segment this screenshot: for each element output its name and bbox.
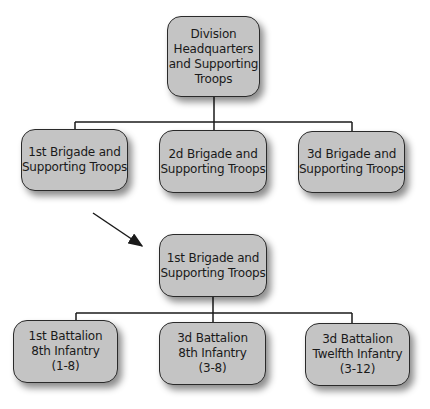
box-label-line: 3d Brigade and: [307, 147, 396, 162]
3d-battalion-8th-infantry-box: 3d Battalion 8th Infantry (3-8): [159, 322, 266, 385]
box-label-line: 3d Battalion: [322, 332, 393, 347]
box-label-line: 8th Infantry: [178, 346, 246, 361]
box-label-line: and Supporting: [169, 57, 259, 72]
2d-brigade-box: 2d Brigade and Supporting Troops: [159, 130, 267, 193]
1st-battalion-8th-infantry-box: 1st Battalion 8th Infantry (1-8): [13, 320, 118, 383]
box-label-line: (1-8): [52, 359, 80, 374]
3d-battalion-twelfth-infantry-box: 3d Battalion Twelfth Infantry (3-12): [305, 323, 410, 386]
box-label-line: Troops: [195, 72, 233, 87]
box-label-line: Twelfth Infantry: [313, 347, 403, 362]
box-label-line: 1st Battalion: [29, 329, 103, 344]
expanded-1st-brigade-box: 1st Brigade and Supporting Troops: [159, 234, 267, 297]
box-label-line: 1st Brigade and: [28, 145, 120, 160]
1st-brigade-box: 1st Brigade and Supporting Troops: [21, 129, 128, 191]
box-label-line: (3-8): [199, 361, 227, 376]
box-label-line: Headquarters: [174, 42, 254, 57]
3d-brigade-box: 3d Brigade and Supporting Troops: [298, 131, 405, 193]
box-label-line: Division: [191, 27, 237, 42]
box-label-line: (3-12): [340, 362, 375, 377]
box-label-line: Supporting Troops: [299, 162, 404, 177]
division-headquarters-box: Division Headquarters and Supporting Tro…: [167, 16, 260, 97]
box-label-line: 1st Brigade and: [167, 251, 259, 266]
box-label-line: 2d Brigade and: [168, 147, 257, 162]
arrow-down-right-icon: [93, 213, 142, 246]
box-label-line: Supporting Troops: [22, 160, 127, 175]
box-label-line: 3d Battalion: [177, 331, 248, 346]
box-label-line: 8th Infantry: [31, 344, 99, 359]
box-label-line: Supporting Troops: [160, 162, 265, 177]
box-label-line: Supporting Troops: [160, 266, 265, 281]
